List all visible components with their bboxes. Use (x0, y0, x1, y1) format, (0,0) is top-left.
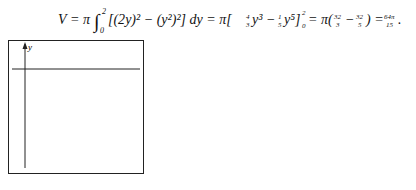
svg-text:y: y (27, 42, 32, 52)
svg-text:32: 32 (355, 13, 364, 21)
svg-text:y³ −: y³ − (250, 12, 275, 27)
svg-text:32: 32 (333, 13, 342, 21)
figure-17-graph: y (8, 40, 144, 174)
svg-text:5: 5 (278, 21, 282, 29)
svg-text:.: . (398, 12, 402, 27)
svg-text:) =: ) = (365, 12, 384, 28)
svg-text:15: 15 (386, 21, 394, 29)
svg-text:3: 3 (335, 21, 340, 29)
svg-text:[(2y)² − (y²)²] dy = π[: [(2y)² − (y²)²] dy = π[ (108, 12, 232, 28)
volume-equation: V = π ∫ 2 0 [(2y)² − (y²)²] dy = π[ 4 3 … (58, 6, 416, 40)
svg-text:2: 2 (302, 9, 306, 17)
svg-text:2: 2 (102, 7, 106, 16)
svg-text:64π: 64π (384, 13, 395, 21)
svg-text:5: 5 (358, 21, 362, 29)
svg-text:3: 3 (245, 21, 250, 29)
svg-text:−: − (345, 12, 354, 27)
figure-17: y (8, 40, 144, 178)
svg-text:= π: = π (70, 12, 91, 27)
svg-text:0: 0 (100, 26, 104, 35)
svg-text:4: 4 (246, 13, 250, 21)
equation-render: V = π ∫ 2 0 [(2y)² − (y²)²] dy = π[ 4 3 … (58, 6, 416, 36)
svg-text:y⁵]: y⁵] (282, 12, 301, 27)
svg-text:0: 0 (302, 22, 306, 30)
svg-text:= π(: = π( (308, 12, 334, 28)
svg-text:1: 1 (278, 13, 282, 21)
svg-text:V: V (58, 12, 68, 27)
